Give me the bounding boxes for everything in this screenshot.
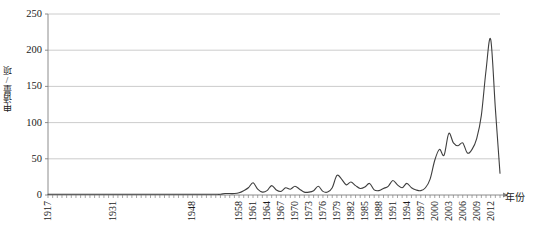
x-axis-title: 年份 [505,189,525,204]
x-tick-label: 1979 [332,201,342,221]
x-tick-label: 2012 [486,201,496,221]
axes [48,14,508,195]
x-tick-label: 1931 [108,201,118,221]
x-tick-label: 1982 [346,201,356,221]
x-tick-label: 1970 [290,201,300,221]
x-tick-label: 1967 [276,201,286,221]
y-tick-label: 200 [12,44,42,55]
gridlines [48,14,500,159]
y-tick-label: 0 [12,189,42,200]
data-series-line [48,38,500,194]
x-tick-label: 1985 [360,201,370,221]
y-tick-label: 150 [12,80,42,91]
x-tick-label: 1988 [374,201,384,221]
x-tick-label: 1958 [234,201,244,221]
x-tick-label: 2006 [458,201,468,221]
x-tick-label: 2000 [430,201,440,221]
x-tick-label: 1991 [388,201,398,221]
y-tick-label: 50 [12,153,42,164]
x-tick-label: 2009 [472,201,482,221]
x-tick-label: 1976 [318,201,328,221]
y-tick-label: 100 [12,117,42,128]
x-tick-label: 1973 [304,201,314,221]
x-tick-label: 1997 [416,201,426,221]
line-chart: 申请量/项 年份 050100150200250 191719311948195… [0,0,534,238]
x-tick-label: 1948 [187,201,197,221]
x-tick-label: 1964 [262,201,272,221]
x-tick-label: 1994 [402,201,412,221]
x-tick-label: 1961 [248,201,258,221]
y-tick-label: 250 [12,8,42,19]
x-tick-label: 2003 [444,201,454,221]
x-tick-label: 1917 [43,201,53,221]
